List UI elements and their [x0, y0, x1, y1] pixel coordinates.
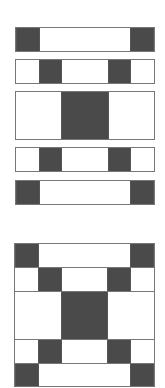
- block-row-1: [15, 244, 154, 268]
- light-patch: [15, 292, 61, 339]
- dark-patch: [15, 364, 39, 386]
- light-patch: [16, 148, 39, 171]
- strip-row-1: [15, 27, 155, 52]
- dark-patch: [130, 244, 154, 267]
- light-patch: [40, 181, 131, 204]
- light-patch: [131, 340, 154, 363]
- dark-patch: [39, 148, 63, 171]
- block-row-2: [15, 268, 154, 292]
- dark-patch: [16, 181, 40, 204]
- dark-patch: [15, 244, 39, 267]
- dark-patch: [38, 340, 62, 363]
- dark-patch: [61, 292, 109, 339]
- dark-patch: [108, 60, 132, 83]
- dark-patch: [130, 28, 154, 51]
- light-patch: [62, 340, 108, 363]
- dark-patch: [38, 268, 62, 291]
- light-patch: [109, 92, 154, 139]
- strip-row-5: [15, 180, 155, 205]
- light-patch: [108, 292, 154, 339]
- light-patch: [39, 244, 130, 267]
- light-patch: [39, 364, 130, 386]
- light-patch: [62, 268, 108, 291]
- light-patch: [131, 148, 154, 171]
- strip-row-2: [15, 59, 155, 84]
- strip-row-3: [15, 91, 155, 140]
- dark-patch: [130, 364, 154, 386]
- dark-patch: [16, 28, 40, 51]
- light-patch: [16, 92, 61, 139]
- strip-row-4: [15, 147, 155, 172]
- light-patch: [62, 60, 107, 83]
- dark-patch: [107, 340, 131, 363]
- light-patch: [15, 340, 38, 363]
- dark-patch: [107, 268, 131, 291]
- dark-patch: [61, 92, 108, 139]
- dark-patch: [130, 181, 154, 204]
- block-row-3: [15, 292, 154, 340]
- dark-patch: [39, 60, 63, 83]
- light-patch: [62, 148, 107, 171]
- assembled-quilt-block: [14, 243, 155, 387]
- dark-patch: [108, 148, 132, 171]
- light-patch: [16, 60, 39, 83]
- light-patch: [131, 60, 154, 83]
- light-patch: [131, 268, 154, 291]
- block-row-4: [15, 340, 154, 364]
- light-patch: [40, 28, 131, 51]
- light-patch: [15, 268, 38, 291]
- block-row-5: [15, 364, 154, 386]
